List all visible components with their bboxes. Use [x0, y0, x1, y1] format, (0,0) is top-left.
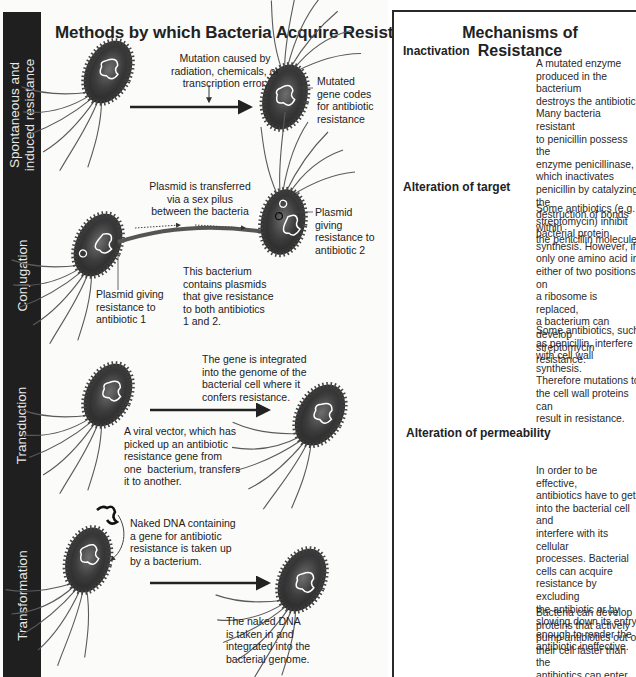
text-line: to penicillin possess the — [536, 134, 636, 159]
text-line: is taken in and — [226, 628, 316, 641]
text-line: only one amino acid in — [536, 253, 636, 266]
text-line: giving — [315, 219, 385, 232]
text-line: Therefore mutations to — [536, 375, 636, 388]
text-line: as penicillin, interfere — [536, 338, 636, 351]
text-line: to both antibiotics — [183, 303, 283, 316]
text-line: Some antibiotics, such — [536, 325, 636, 338]
alteration-permeability-text-2: Bacteria can develop proteins that activ… — [536, 607, 636, 677]
text-line: antibiotic 2 — [315, 244, 385, 257]
plasmid-transfer-text: Plasmid is transferred via a sex pilus b… — [145, 180, 255, 218]
text-line: streptomycin) inhibit — [536, 216, 636, 229]
text-line: for antibiotic — [317, 100, 387, 113]
naked-dna-text: Naked DNA containing a gene for antibiot… — [130, 517, 240, 567]
text-line: Some antibiotics (e.g. — [536, 203, 636, 216]
text-line: that give resistance — [183, 290, 283, 303]
text-line: resistance to — [315, 231, 385, 244]
gene-integrated-text: The gene is integrated into the genome o… — [202, 353, 307, 403]
text-line: into the genome of the — [202, 366, 307, 379]
text-line: radiation, chemicals, or — [165, 65, 285, 78]
text-line: Naked DNA containing — [130, 517, 240, 530]
text-line: resistance by excluding — [536, 578, 636, 603]
mutation-cause-text: Mutation caused by radiation, chemicals,… — [165, 52, 285, 90]
text-line: Many bacteria resistant — [536, 108, 636, 133]
text-line: produced in the bacterium — [536, 71, 636, 96]
text-line: A viral vector, which has — [124, 425, 239, 438]
plasmid-antibiotic-1-label: Plasmid giving resistance to antibiotic … — [96, 288, 181, 326]
mutated-gene-label: Mutated gene codes for antibiotic resist… — [317, 75, 387, 125]
label-transduction-text: Transduction — [15, 386, 30, 464]
text-line: The gene is integrated — [202, 353, 307, 366]
alteration-target-heading: Alteration of target — [403, 180, 510, 194]
plasmid-antibiotic-2-label: Plasmid giving resistance to antibiotic … — [315, 206, 385, 256]
text-line: A mutated enzyme — [536, 58, 636, 71]
text-line: 1 and 2. — [183, 315, 283, 328]
alteration-permeability-heading: Alteration of permeability — [406, 426, 551, 440]
text-line: a gene for antibiotic — [130, 530, 240, 543]
label-transformation: Transformation — [3, 525, 41, 665]
label-transformation-text: Transformation — [15, 550, 30, 640]
text-line: cells can acquire — [536, 566, 636, 579]
text-line: with cell wall synthesis. — [536, 350, 636, 375]
text-line: one bacterium, transfers — [124, 463, 239, 476]
text-line: by a bacterium. — [130, 555, 240, 568]
text-line: resistance is taken up — [130, 542, 240, 555]
text-line: a ribosome is replaced, — [536, 291, 636, 316]
text-line: confers resistance. — [202, 391, 307, 404]
text-line: result in resistance. — [536, 413, 636, 426]
text-line: resistance to — [96, 301, 181, 314]
text-line: The naked DNA — [226, 615, 316, 628]
text-line: contains plasmids — [183, 278, 283, 291]
text-line: which inactivates — [536, 171, 636, 184]
text-line: bacterial genome. — [226, 653, 316, 666]
text-line: pump antibiotics out of — [536, 632, 636, 645]
label-spontaneous-line1: Spontaneous and — [7, 59, 22, 172]
alteration-target-text-2: Some antibiotics, such as penicillin, in… — [536, 325, 636, 426]
methods-title: Methods by which Bacteria Acquire Resist… — [55, 23, 432, 43]
label-spontaneous: Spontaneous andinduced resistance — [3, 40, 41, 190]
text-line: Plasmid — [315, 206, 385, 219]
text-line: via a sex pilus — [145, 193, 255, 206]
text-line: destroys the antibiotic. — [536, 96, 636, 109]
text-line: interfere with its cellular — [536, 528, 636, 553]
text-line: Bacteria can develop — [536, 607, 636, 620]
text-line: bacterial protein — [536, 228, 636, 241]
label-spontaneous-line2: induced resistance — [22, 59, 37, 172]
label-transduction: Transduction — [3, 360, 41, 490]
text-line: resistance gene from — [124, 450, 239, 463]
text-line: gene codes — [317, 88, 387, 101]
text-line: it to another. — [124, 475, 239, 488]
text-line: proteins that actively — [536, 620, 636, 633]
text-line: resistance — [317, 113, 387, 126]
text-line: integrated into the — [226, 640, 316, 653]
text-line: Plasmid giving — [96, 288, 181, 301]
text-line: This bacterium — [183, 265, 283, 278]
text-line: their cell faster than the — [536, 645, 636, 670]
label-conjugation-text: Conjugation — [15, 239, 30, 311]
both-plasmids-text: This bacterium contains plasmids that gi… — [183, 265, 283, 328]
text-line: between the bacteria — [145, 205, 255, 218]
text-line: antibiotics can enter. — [536, 670, 636, 677]
text-line: picked up an antibiotic — [124, 438, 239, 451]
viral-vector-text: A viral vector, which has picked up an a… — [124, 425, 239, 488]
inactivation-heading: Inactivation — [403, 44, 470, 58]
text-line: processes. Bacterial — [536, 553, 636, 566]
text-line: antibiotics have to get — [536, 490, 636, 503]
text-line: In order to be effective, — [536, 465, 636, 490]
text-line: transcription error. — [165, 77, 285, 90]
text-line: Plasmid is transferred — [145, 180, 255, 193]
text-line: Mutated — [317, 75, 387, 88]
text-line: into the bacterial cell and — [536, 503, 636, 528]
text-line: bacterial cell where it — [202, 378, 307, 391]
dna-integrated-text: The naked DNA is taken in and integrated… — [226, 615, 316, 665]
text-line: the cell wall proteins can — [536, 388, 636, 413]
text-line: Mutation caused by — [165, 52, 285, 65]
text-line: either of two positions on — [536, 266, 636, 291]
text-line: synthesis. However, if — [536, 241, 636, 254]
text-line: enzyme penicillinase, — [536, 159, 636, 172]
label-conjugation: Conjugation — [3, 210, 41, 340]
text-line: antibiotic 1 — [96, 313, 181, 326]
